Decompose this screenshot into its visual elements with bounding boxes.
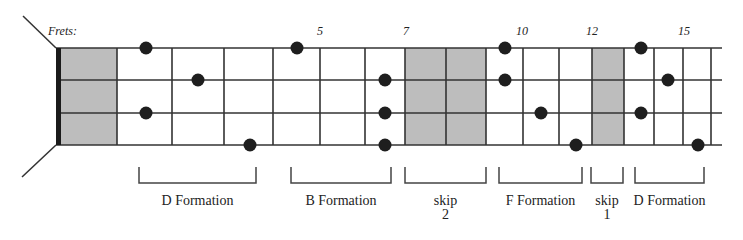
formation-bracket: B Formation [291, 167, 391, 208]
note-dot [379, 139, 392, 152]
bracket-label: D Formation [634, 193, 706, 208]
bracket-label: B Formation [305, 193, 376, 208]
formation-bracket: D Formation [634, 167, 706, 208]
bracket-label: 2 [442, 207, 449, 222]
shaded-regions [61, 48, 624, 145]
headstock-lines [22, 16, 56, 177]
formation-bracket: F Formation [499, 167, 582, 208]
note-dot [635, 107, 648, 120]
bracket-line [635, 167, 704, 183]
note-dot [499, 74, 512, 87]
bracket-label: skip [595, 193, 618, 208]
note-dot [379, 107, 392, 120]
note-dot [692, 139, 705, 152]
nut-bar [56, 48, 61, 145]
formation-brackets: D FormationB Formationskip2F Formationsk… [139, 167, 705, 222]
bracket-label: skip [434, 193, 457, 208]
bracket-line [139, 167, 256, 183]
bracket-line [291, 167, 391, 183]
fret-numbers: 57101215 [317, 24, 690, 38]
fret-number: 5 [317, 24, 323, 38]
shaded-region-open-position [61, 48, 117, 145]
bracket-label: F Formation [506, 193, 576, 208]
note-dot [379, 74, 392, 87]
formation-bracket: skip1 [591, 167, 623, 222]
note-dot [140, 42, 153, 55]
nut [56, 48, 61, 145]
note-dot [535, 107, 548, 120]
formation-bracket: D Formation [139, 167, 256, 208]
frets-title: Frets: [47, 24, 77, 38]
bracket-line [405, 167, 486, 183]
note-dot [244, 139, 257, 152]
bracket-label: D Formation [162, 193, 234, 208]
fret-number: 12 [586, 24, 598, 38]
bracket-label: 1 [604, 207, 611, 222]
note-dot [499, 42, 512, 55]
note-dot [570, 139, 583, 152]
headstock-bottom-line [22, 145, 56, 177]
bracket-line [591, 167, 623, 183]
note-dot [192, 74, 205, 87]
fret-number: 15 [678, 24, 690, 38]
note-dot [140, 107, 153, 120]
fretboard-diagram: Frets: 57101215 D FormationB Formationsk… [0, 0, 743, 240]
shaded-region-skip-1-region [592, 48, 624, 145]
note-dot [662, 74, 675, 87]
fretboard-canvas: Frets: 57101215 D FormationB Formationsk… [0, 0, 743, 240]
note-dot [635, 42, 648, 55]
fret-number: 10 [516, 24, 528, 38]
fret-number: 7 [403, 24, 410, 38]
formation-bracket: skip2 [405, 167, 486, 222]
note-dot [291, 42, 304, 55]
bracket-line [499, 167, 582, 183]
